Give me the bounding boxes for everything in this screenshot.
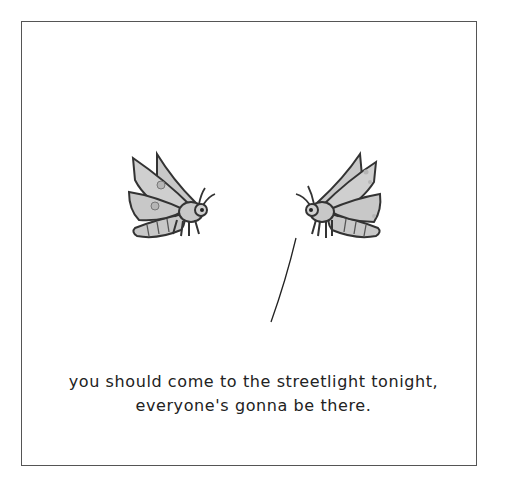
caption-line-1: you should come to the streetlight tonig… — [0, 370, 507, 394]
caption-line-2: everyone's gonna be there. — [0, 394, 507, 418]
